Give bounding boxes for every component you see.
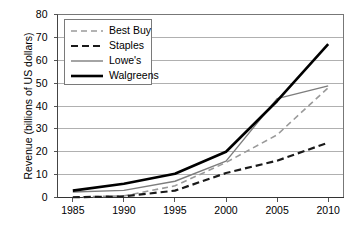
y-tick-label: 40 [26, 101, 48, 111]
y-tick-label: 0 [26, 192, 48, 202]
series-line [73, 143, 328, 198]
x-tick-label: 2005 [257, 205, 297, 215]
x-tick-label: 2010 [308, 205, 348, 215]
legend: Best BuyStaplesLowe'sWalgreens [64, 19, 152, 85]
x-tick-label: 1995 [155, 205, 195, 215]
legend-label: Best Buy [109, 25, 151, 36]
legend-item: Lowe's [65, 53, 151, 68]
legend-item: Best Buy [65, 23, 151, 38]
legend-label: Lowe's [109, 55, 141, 66]
y-tick-label: 70 [26, 32, 48, 42]
y-tick-label: 60 [26, 55, 48, 65]
x-tick-label: 2000 [206, 205, 246, 215]
series-line [73, 86, 328, 192]
plot-area [0, 0, 359, 236]
y-tick-label: 20 [26, 146, 48, 156]
y-tick-label: 30 [26, 123, 48, 133]
y-tick-label: 80 [26, 9, 48, 19]
y-tick-label: 10 [26, 169, 48, 179]
y-tick-label: 50 [26, 78, 48, 88]
series-line [73, 88, 328, 197]
line-chart: Revenue (billions of US dollars) 0102030… [0, 0, 359, 236]
legend-swatch-icon [70, 26, 104, 36]
legend-label: Walgreens [109, 70, 159, 81]
legend-item: Staples [65, 38, 151, 53]
legend-swatch-icon [70, 56, 104, 66]
legend-swatch-icon [70, 71, 104, 81]
legend-swatch-icon [70, 41, 104, 51]
x-tick-label: 1990 [104, 205, 144, 215]
legend-item: Walgreens [65, 68, 151, 83]
legend-label: Staples [109, 40, 144, 51]
x-tick-label: 1985 [53, 205, 93, 215]
